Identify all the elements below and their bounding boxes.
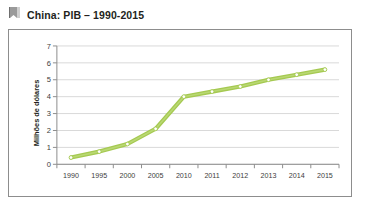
svg-text:2012: 2012 <box>232 172 248 180</box>
svg-text:2000: 2000 <box>119 172 135 180</box>
line-chart-svg: 01234567 1990199520002005201020112012201… <box>39 42 343 186</box>
x-tick-labels: 1990199520002005201020112012201320142015 <box>63 172 333 180</box>
svg-text:2: 2 <box>47 126 51 135</box>
page-title: China: PIB – 1990-2015 <box>27 9 144 21</box>
svg-text:1990: 1990 <box>63 172 79 180</box>
svg-text:1995: 1995 <box>91 172 107 180</box>
svg-text:0: 0 <box>47 160 51 169</box>
svg-text:5: 5 <box>47 75 51 84</box>
svg-text:2014: 2014 <box>289 172 305 180</box>
svg-text:2005: 2005 <box>148 172 164 180</box>
svg-text:2011: 2011 <box>204 172 219 180</box>
svg-text:2015: 2015 <box>317 172 333 180</box>
svg-text:2010: 2010 <box>176 172 192 180</box>
plot-area: 01234567 1990199520002005201020112012201… <box>39 42 343 186</box>
y-axis <box>53 46 57 164</box>
y-tick-labels: 01234567 <box>47 42 51 169</box>
chart-container: Milhões de dólares 01234567 199019952000… <box>8 29 352 197</box>
chart-header: China: PIB – 1990-2015 <box>8 4 144 26</box>
gridlines <box>57 46 339 164</box>
svg-text:7: 7 <box>47 42 51 51</box>
svg-text:3: 3 <box>47 109 51 118</box>
svg-text:2013: 2013 <box>261 172 277 180</box>
x-axis <box>57 164 339 168</box>
svg-text:4: 4 <box>47 92 51 101</box>
svg-text:1: 1 <box>47 143 51 152</box>
svg-text:6: 6 <box>47 59 51 68</box>
bookmark-flag-icon <box>8 7 21 23</box>
